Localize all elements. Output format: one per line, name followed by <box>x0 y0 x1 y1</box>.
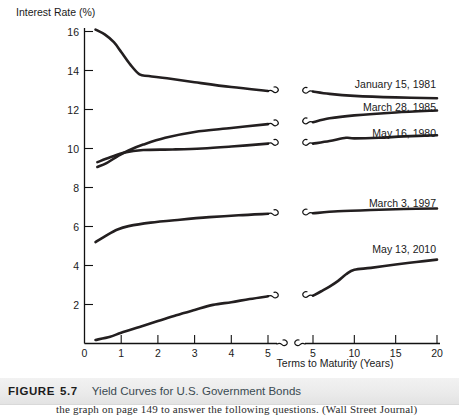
y-tick-label-12: 12 <box>67 104 79 116</box>
caption-figure-label: FIGURE <box>8 385 55 397</box>
x-axis-break-marks <box>277 340 305 346</box>
curve-break-left-2 <box>268 139 278 145</box>
x-axis-ticks-right: 5101520 <box>310 335 443 359</box>
y-axis-ticks: 246810121416 <box>67 26 93 311</box>
x-tick-label-left-0: 0 <box>82 347 88 359</box>
y-tick-label-14: 14 <box>67 65 79 77</box>
figure-caption-bar: FIGURE 5.7 Yield Curves for U.S. Governm… <box>0 378 459 404</box>
y-tick-label-6: 6 <box>73 221 79 233</box>
x-tick-label-left-5: 5 <box>265 347 271 359</box>
curve-right-january-15-1981 <box>313 92 437 99</box>
curve-break-left-0 <box>268 87 278 93</box>
caption-figure-number: 5.7 <box>60 385 78 397</box>
curve-left-march-3-1997 <box>96 214 268 242</box>
curve-break-right-1 <box>303 118 313 124</box>
series-label-may-16-1980: May 16, 1980 <box>372 127 436 139</box>
curves-left-segment <box>96 30 268 340</box>
x-tick-label-left-4: 4 <box>228 347 234 359</box>
curve-left-january-15-1981 <box>96 30 268 91</box>
curve-break-marks <box>268 87 313 298</box>
x-tick-label-left-1: 1 <box>118 347 124 359</box>
series-label-march-3-1997: March 3, 1997 <box>369 197 436 209</box>
y-tick-label-10: 10 <box>67 143 79 155</box>
caption-figure-title: Yield Curves for U.S. Government Bonds <box>92 385 301 397</box>
curve-left-may-16-1980 <box>97 144 268 163</box>
series-label-january-15-1981: January 15, 1981 <box>355 78 436 90</box>
trailing-body-text-line: the graph on page 149 to answer the foll… <box>56 406 459 415</box>
curve-break-right-4 <box>303 292 313 298</box>
y-tick-label-4: 4 <box>73 260 79 272</box>
yield-curves-chart: Interest Rate (%) 246810121416 012345 51… <box>0 0 459 380</box>
curve-break-right-0 <box>303 87 313 93</box>
curves-right-segment <box>313 92 437 296</box>
trailing-body-text: the graph on page 149 to answer the foll… <box>0 406 459 419</box>
x-tick-label-left-2: 2 <box>155 347 161 359</box>
x-axis-title: Terms to Maturity (Years) <box>277 357 394 369</box>
figure-container: Interest Rate (%) 246810121416 012345 51… <box>0 0 459 419</box>
x-tick-label-left-3: 3 <box>192 347 198 359</box>
curve-break-left-4 <box>268 292 278 298</box>
series-label-march-28-1985: March 28, 1985 <box>363 101 436 113</box>
curve-right-march-3-1997 <box>313 209 437 214</box>
curve-right-may-13-2010 <box>313 260 437 296</box>
curve-break-right-3 <box>303 209 313 215</box>
y-tick-label-8: 8 <box>73 182 79 194</box>
curve-break-left-3 <box>268 210 278 216</box>
series-labels: January 15, 1981March 28, 1985May 16, 19… <box>355 78 436 255</box>
curve-left-may-13-2010 <box>96 296 268 340</box>
axis-break-left-squiggle <box>277 340 287 346</box>
axis-break-right-squiggle <box>295 340 305 346</box>
y-tick-label-16: 16 <box>67 26 79 38</box>
curve-break-right-2 <box>303 139 313 145</box>
y-tick-label-2: 2 <box>73 299 79 311</box>
y-axis-title: Interest Rate (%) <box>16 6 95 18</box>
caption-divider <box>0 404 459 405</box>
x-tick-label-right-20: 20 <box>431 347 443 359</box>
curve-break-left-1 <box>268 120 278 126</box>
series-label-may-13-2010: May 13, 2010 <box>372 243 436 255</box>
x-axis-ticks-left: 012345 <box>82 335 272 359</box>
